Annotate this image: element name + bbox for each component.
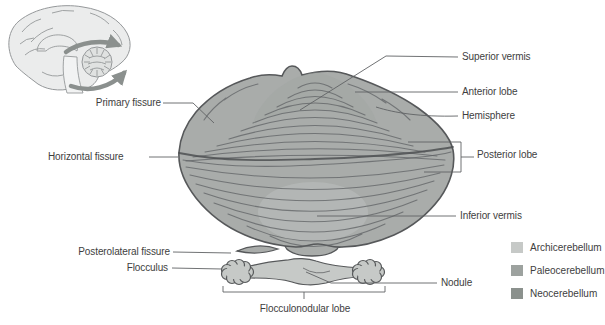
label-primary-fissure: Primary fissure (61, 97, 161, 108)
brain-inset-illustration (9, 6, 130, 93)
peduncle-wing-left (237, 246, 278, 253)
legend-row-archicerebellum: Archicerebellum (511, 241, 602, 253)
label-posterolateral-fissure: Posterolateral fissure (40, 246, 170, 257)
label-flocculonodular-lobe: Flocculonodular lobe (227, 303, 383, 314)
legend-label-paleocerebellum: Paleocerebellum (530, 265, 605, 276)
flocculus-right-shape (353, 260, 385, 285)
label-hemisphere: Hemisphere (462, 110, 515, 121)
label-flocculus: Flocculus (40, 262, 168, 273)
legend-swatch-archicerebellum (511, 242, 523, 253)
legend-swatch-neocerebellum (511, 288, 523, 299)
flocculonodular-lobe-bracket (223, 286, 385, 299)
legend-row-paleocerebellum: Paleocerebellum (511, 264, 605, 276)
legend-label-neocerebellum: Neocerebellum (530, 288, 597, 299)
label-superior-vermis: Superior vermis (462, 51, 531, 62)
legend-swatch-paleocerebellum (511, 265, 523, 276)
flocculonodular-lobe-illustration (222, 259, 385, 285)
cerebellum-flattened-illustration (179, 66, 454, 256)
label-anterior-lobe: Anterior lobe (462, 86, 517, 97)
legend-label-archicerebellum: Archicerebellum (530, 242, 602, 253)
label-inferior-vermis: Inferior vermis (460, 210, 522, 221)
label-posterior-lobe: Posterior lobe (477, 149, 537, 160)
inferior-vermis-shading (258, 182, 368, 242)
flocculus-left-shape (222, 260, 254, 285)
leader-posterolateral-fissure (173, 252, 231, 253)
label-nodule: Nodule (441, 277, 472, 288)
leader-flocculus (172, 268, 222, 269)
legend-row-neocerebellum: Neocerebellum (511, 287, 597, 299)
vermis-band-and-nodule-shape (250, 259, 362, 285)
label-horizontal-fissure: Horizontal fissure (48, 151, 123, 162)
